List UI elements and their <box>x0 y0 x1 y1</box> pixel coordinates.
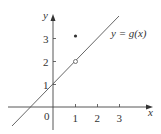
x-tick-label-1: 1 <box>73 112 79 124</box>
x-axis-label: x <box>147 106 153 118</box>
filled-point <box>74 34 77 37</box>
y-axis-arrow-icon <box>51 14 56 21</box>
y-tick-label-1: 1 <box>43 79 49 91</box>
y-axis-label: y <box>42 9 48 21</box>
origin-label: 0 <box>44 110 50 122</box>
graph-figure: 0 1 2 3 1 2 3 x y y = g(x) <box>0 0 161 134</box>
open-point <box>74 60 78 64</box>
function-line <box>12 16 119 126</box>
x-tick-label-2: 2 <box>95 112 101 124</box>
graph-svg: 0 1 2 3 1 2 3 x y y = g(x) <box>0 0 161 134</box>
y-tick-label-3: 3 <box>43 33 49 45</box>
curve-label: y = g(x) <box>110 27 147 40</box>
y-tick-label-2: 2 <box>43 56 49 68</box>
x-tick-label-3: 3 <box>117 112 123 124</box>
